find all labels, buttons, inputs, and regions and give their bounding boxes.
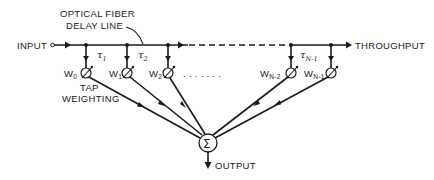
fiber-label-line2: DELAY LINE [66, 20, 123, 31]
delay-line [54, 42, 352, 49]
fiber-label-leader [126, 27, 143, 44]
throughput-label: THROUGHPUT [355, 40, 425, 51]
tap-0 [81, 43, 93, 78]
delay-tau-n-1: τN-1 [300, 49, 318, 63]
input-label: INPUT [17, 40, 47, 51]
weight-label-2: W2 [149, 68, 162, 80]
tap-2 [163, 43, 175, 78]
ellipsis: . . . . . . . [183, 68, 221, 79]
tap-1 [122, 43, 134, 78]
delay-tau-1: τ1 [97, 49, 107, 63]
tap-n-1 [326, 43, 338, 78]
output-label: OUTPUT [215, 160, 256, 171]
input-port-icon [51, 43, 55, 47]
summing-lines [89, 77, 328, 138]
tap-weighting-label-line2: WEIGHTING [62, 93, 120, 104]
weight-label-n-2: WN-2 [260, 68, 281, 80]
output-arrow-icon [205, 162, 212, 169]
tap-weighting-label-line1: TAP [80, 82, 99, 93]
weight-label-0: W0 [64, 68, 77, 80]
tap-n-2 [286, 43, 298, 78]
weight-label-n-1: WN-1 [304, 68, 325, 80]
tapped-delay-line-diagram: OPTICAL FIBER DELAY LINE INPUT THROUGHPU… [0, 0, 434, 180]
weight-label-1: W1 [109, 68, 122, 80]
fiber-label-line1: OPTICAL FIBER [60, 8, 135, 19]
throughput-arrow-icon [346, 42, 352, 49]
sigma-symbol: Σ [203, 137, 211, 151]
delay-tau-2: τ2 [138, 49, 148, 63]
